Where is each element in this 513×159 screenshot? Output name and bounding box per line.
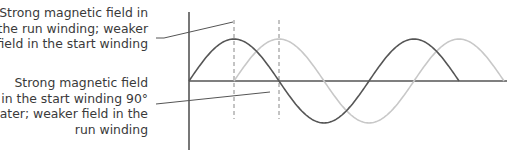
leader-line-run [156,22,233,38]
waveform-diagram [0,0,513,159]
leader-line-start [156,92,270,104]
